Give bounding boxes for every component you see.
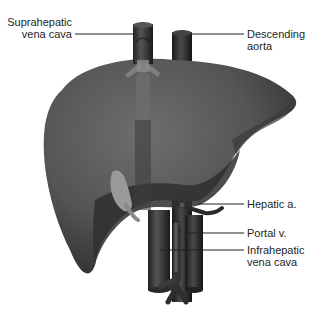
label-infrahepatic-vena-cava: Infrahepatic vena cava <box>247 244 304 268</box>
descending-aorta-lower <box>185 215 203 293</box>
label-line: Infrahepatic <box>247 244 304 256</box>
label-portal-vein: Portal v. <box>247 227 287 239</box>
label-line: aorta <box>247 40 305 52</box>
label-line: Descending <box>247 28 305 40</box>
label-suprahepatic-vena-cava: Suprahepatic vena cava <box>6 16 72 40</box>
label-descending-aorta: Descending aorta <box>247 28 305 52</box>
label-hepatic-artery: Hepatic a. <box>247 198 297 210</box>
label-line: Hepatic a. <box>247 198 297 210</box>
infrahepatic-vena-cava <box>148 210 170 293</box>
label-line: Portal v. <box>247 227 287 239</box>
label-line: vena cava <box>247 256 304 268</box>
label-line: vena cava <box>6 28 72 40</box>
label-line: Suprahepatic <box>6 16 72 28</box>
